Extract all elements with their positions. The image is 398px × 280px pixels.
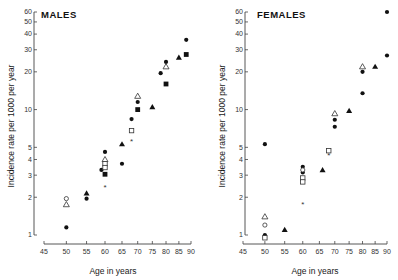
y-tick-label: 40: [24, 30, 32, 37]
y-tick-label: 2: [239, 194, 243, 201]
panel-title-males: MALES: [41, 9, 77, 20]
chart-figure: MALES Age in years Incidence rate per 10…: [0, 0, 398, 280]
y-tick-label: 1: [28, 231, 32, 238]
x-tick-label: 80: [162, 248, 170, 255]
data-point-open-triangle: [262, 214, 268, 219]
data-point-open-square: [103, 165, 107, 169]
x-tick-label: 55: [83, 248, 91, 255]
y-tick-label: 50: [235, 18, 243, 25]
x-tick-label: 85: [175, 248, 183, 255]
data-point-star: *: [327, 151, 330, 160]
females-panel: FEMALES Age in years Incidence rate per …: [217, 8, 391, 276]
data-point-filled-triangle: [149, 104, 155, 109]
y-tick-label: 60: [24, 8, 32, 15]
y-tick-label: 30: [24, 46, 32, 53]
data-point-open-triangle: [163, 64, 169, 69]
males-panel: MALES Age in years Incidence rate per 10…: [6, 8, 195, 276]
data-point-filled-triangle: [119, 141, 125, 146]
x-tick-label: 75: [345, 248, 353, 255]
x-tick-label: 90: [383, 248, 391, 255]
x-tick-label: 50: [62, 248, 70, 255]
data-point-filled-circle: [360, 70, 364, 74]
data-point-filled-circle: [263, 142, 267, 146]
y-tick-label: 50: [24, 18, 32, 25]
data-point-open-circle: [64, 197, 68, 201]
y-tick-label: 4: [239, 156, 243, 163]
x-tick-label: 60: [101, 248, 109, 255]
x-tick-label: 70: [134, 248, 142, 255]
data-point-open-triangle: [63, 202, 69, 207]
y-tick-label: 5: [28, 144, 32, 151]
panel-title-females: FEMALES: [257, 9, 306, 20]
data-point-filled-circle: [120, 162, 124, 166]
data-point-filled-circle: [136, 100, 140, 104]
data-point-filled-triangle: [346, 108, 352, 113]
y-tick-label: 30: [235, 46, 243, 53]
y-tick-label: 20: [24, 68, 32, 75]
data-point-open-circle: [301, 168, 305, 172]
y-tick-label: 10: [235, 106, 243, 113]
y-tick-label: 20: [235, 68, 243, 75]
x-tick-label: 70: [331, 248, 339, 255]
y-tick-label: 4: [28, 156, 32, 163]
x-tick-label: 45: [40, 248, 48, 255]
x-axis-title-females: Age in years: [291, 266, 338, 276]
data-point-open-circle: [263, 223, 267, 227]
data-points-females: **: [262, 10, 389, 240]
data-point-filled-circle: [333, 118, 337, 122]
axes-males: 1234510203040506045505560657075808590: [24, 8, 195, 255]
x-tick-label: 65: [315, 248, 323, 255]
y-tick-label: 3: [28, 172, 32, 179]
data-point-filled-circle: [103, 150, 107, 154]
y-tick-label: 2: [28, 194, 32, 201]
y-tick-label: 5: [239, 144, 243, 151]
x-tick-label: 90: [187, 248, 195, 255]
data-point-open-square: [263, 236, 267, 240]
data-point-filled-circle: [385, 53, 389, 57]
data-point-filled-triangle: [176, 55, 182, 60]
data-point-filled-triangle: [372, 64, 378, 69]
x-tick-label: 55: [281, 248, 289, 255]
data-point-filled-triangle: [320, 167, 326, 172]
data-point-filled-circle: [84, 197, 88, 201]
data-point-filled-circle: [64, 225, 68, 229]
y-tick-label: 60: [235, 8, 243, 15]
data-point-filled-circle: [333, 125, 337, 129]
x-tick-label: 85: [371, 248, 379, 255]
data-point-star: *: [103, 183, 106, 192]
data-point-star: *: [301, 200, 304, 209]
x-tick-label: 45: [239, 248, 247, 255]
data-point-open-square: [301, 180, 305, 184]
data-point-open-triangle: [102, 156, 108, 161]
data-point-filled-square: [164, 82, 169, 87]
data-point-filled-circle: [184, 38, 188, 42]
data-point-filled-square: [135, 107, 140, 112]
x-tick-label: 60: [299, 248, 307, 255]
y-axis-title-females: Incidence rate per 1000 per year: [217, 64, 227, 187]
data-point-open-triangle: [360, 64, 366, 69]
y-tick-label: 1: [239, 231, 243, 238]
data-point-filled-square: [103, 172, 108, 177]
data-point-open-square: [129, 128, 133, 132]
x-tick-label: 50: [261, 248, 269, 255]
data-point-filled-triangle: [84, 190, 90, 195]
data-point-filled-triangle: [282, 227, 288, 232]
data-points-males: **: [63, 38, 188, 230]
data-point-open-triangle: [332, 111, 338, 116]
y-tick-label: 40: [235, 30, 243, 37]
x-tick-label: 75: [148, 248, 156, 255]
data-point-filled-circle: [159, 71, 163, 75]
x-tick-label: 65: [118, 248, 126, 255]
x-tick-label: 80: [359, 248, 367, 255]
y-tick-label: 10: [24, 106, 32, 113]
y-axis-title-males: Incidence rate per 1000 per year: [6, 64, 16, 187]
data-point-star: *: [130, 137, 133, 146]
x-axis-title-males: Age in years: [89, 266, 136, 276]
y-tick-label: 3: [239, 172, 243, 179]
data-point-filled-circle: [129, 117, 133, 121]
data-point-filled-square: [184, 52, 189, 57]
data-point-filled-circle: [360, 91, 364, 95]
data-point-filled-circle: [385, 10, 389, 14]
data-point-open-triangle: [135, 93, 141, 98]
axes-females: 1234510203040506045505560657075808590: [235, 8, 391, 255]
